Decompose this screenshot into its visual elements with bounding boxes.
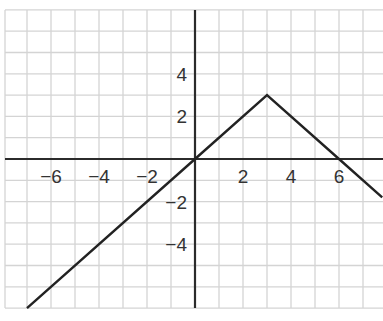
x-tick-label: 6 bbox=[334, 166, 345, 187]
x-tick-label: −2 bbox=[136, 166, 158, 187]
x-tick-label: −4 bbox=[88, 166, 110, 187]
y-tick-label: −4 bbox=[165, 234, 187, 255]
y-tick-label: 4 bbox=[176, 64, 187, 85]
y-tick-label: −2 bbox=[165, 192, 187, 213]
x-tick-label: −6 bbox=[40, 166, 62, 187]
y-tick-label: 2 bbox=[176, 106, 187, 127]
plot-area: −6−4−224642−2−4 bbox=[0, 0, 383, 321]
x-tick-label: 2 bbox=[238, 166, 249, 187]
coordinate-plane-chart: −6−4−224642−2−4 bbox=[0, 0, 383, 321]
x-tick-label: 4 bbox=[286, 166, 297, 187]
